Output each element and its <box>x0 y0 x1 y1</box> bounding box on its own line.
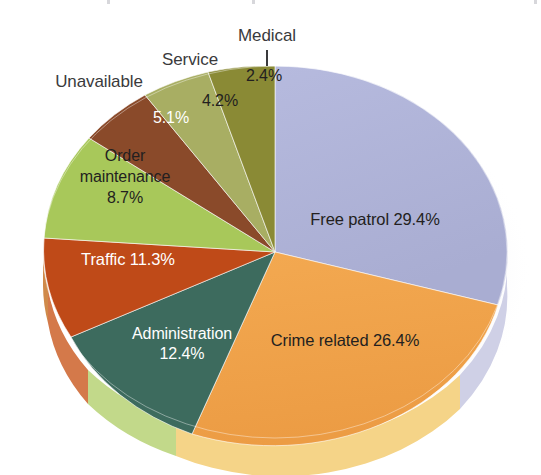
pie-slices <box>44 66 508 446</box>
pie-chart: Free patrol 29.4% Crime related 26.4% Ad… <box>0 0 541 475</box>
pie-chart-graphic <box>0 0 541 475</box>
